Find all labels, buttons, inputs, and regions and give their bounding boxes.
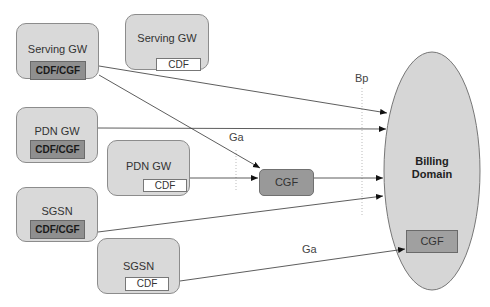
cdf-box: CDF — [156, 58, 201, 71]
node-title: SGSN — [98, 260, 179, 272]
serving-gw-node-2: Serving GW CDF — [125, 14, 209, 70]
link-sgsn1-billing — [98, 196, 383, 232]
node-title: PDN GW — [108, 160, 189, 172]
interface-label-ga-upper: Ga — [229, 131, 244, 143]
cdf-cgf-box: CDF/CGF — [30, 61, 86, 80]
pdn-gw-node-1: PDN GW CDF/CGF — [16, 107, 98, 163]
sgsn-node-2: SGSN CDF — [97, 238, 180, 294]
cdf-cgf-box: CDF/CGF — [30, 220, 85, 239]
node-title: PDN GW — [17, 125, 97, 137]
link-pgw1-billing — [98, 128, 386, 129]
cdf-box: CDF — [125, 277, 169, 291]
cdf-box: CDF — [143, 179, 187, 192]
node-title: Serving GW — [17, 43, 98, 55]
billing-cgf-box: CGF — [406, 230, 458, 253]
billing-domain-label: Billing Domain — [402, 155, 462, 181]
pdn-gw-node-2: PDN GW CDF — [107, 140, 190, 196]
interface-label-ga-lower: Ga — [302, 243, 317, 255]
sgsn-node-1: SGSN CDF/CGF — [16, 187, 98, 242]
node-title: SGSN — [17, 205, 97, 217]
cdf-cgf-box: CDF/CGF — [30, 140, 85, 159]
node-title: Serving GW — [126, 32, 208, 44]
serving-gw-node-1: Serving GW CDF/CGF — [16, 23, 99, 79]
link-sgsn2-billing-cgf — [180, 249, 405, 281]
interface-label-bp: Bp — [355, 72, 368, 84]
billing-label-line2: Domain — [402, 168, 462, 181]
cgf-node: CGF — [259, 169, 314, 196]
link-sgw1-billing — [99, 66, 387, 113]
billing-label-line1: Billing — [402, 155, 462, 168]
